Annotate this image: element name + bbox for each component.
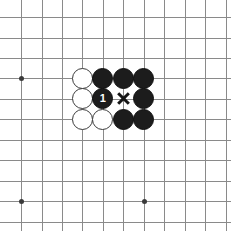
go-board-diagram: 1 [0,0,231,231]
mark-layer [0,0,231,231]
x-mark-c5r4 [116,91,131,106]
